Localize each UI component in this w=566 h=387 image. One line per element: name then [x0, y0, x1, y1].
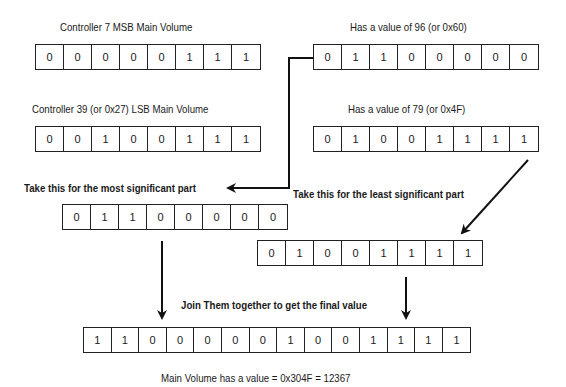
lsb-connector-arrow	[462, 160, 528, 233]
arrows	[0, 0, 566, 387]
msb-connector-arrow	[228, 58, 313, 188]
